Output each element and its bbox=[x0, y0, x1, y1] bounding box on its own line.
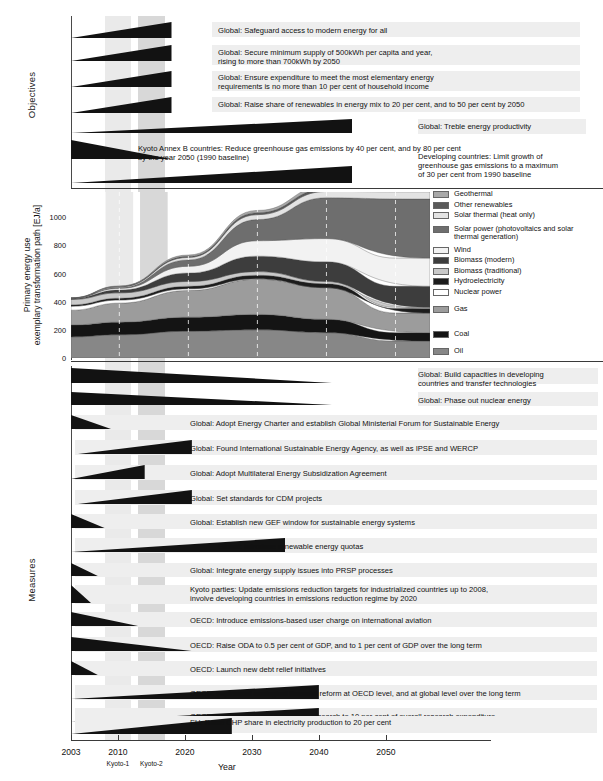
measure-label: Global: Adopt Multilateral Energy Subsid… bbox=[190, 469, 599, 478]
legend-color-swatch bbox=[433, 191, 449, 198]
measure-label: Global: Build capacities in developing c… bbox=[418, 370, 599, 388]
legend-item: Coal bbox=[433, 330, 469, 339]
measure-timeline-wedge bbox=[78, 490, 192, 504]
objective-label: Global: Raise share of renewables in ene… bbox=[218, 100, 596, 109]
legend-label: Solar power (photovoltaics and solar the… bbox=[454, 225, 574, 242]
legend-item: Geothermal bbox=[433, 190, 493, 199]
x-axis-tick bbox=[185, 735, 186, 741]
legend-color-swatch bbox=[433, 331, 449, 338]
objective-timeline-wedge bbox=[71, 119, 352, 133]
primary-energy-use-chart bbox=[71, 192, 430, 358]
x-axis-tick-label: 2030 bbox=[230, 747, 274, 757]
legend-color-swatch bbox=[433, 247, 449, 254]
measure-timeline-wedge bbox=[71, 465, 145, 479]
measure-label: Global: Phase out nuclear energy bbox=[418, 396, 599, 405]
objective-label: Global: Ensure expenditure to meet the m… bbox=[218, 73, 596, 91]
legend-label: Biomass (modern) bbox=[454, 256, 514, 265]
x-axis-tick-label: 2050 bbox=[364, 747, 408, 757]
objective-timeline-wedge bbox=[71, 166, 352, 183]
legend-item: Wind bbox=[433, 246, 471, 255]
measure-timeline-wedge bbox=[78, 440, 192, 454]
measure-timeline-wedge bbox=[71, 585, 91, 603]
legend-color-swatch bbox=[433, 202, 449, 209]
kyoto-period-label: Kyoto-2 bbox=[126, 760, 176, 767]
x-axis-tick bbox=[386, 735, 387, 741]
legend-label: Coal bbox=[454, 330, 469, 339]
measure-label: Global: Establish new GEF window for sus… bbox=[190, 518, 599, 527]
legend-color-swatch bbox=[433, 306, 449, 313]
measures-section-label: Measures bbox=[26, 558, 37, 601]
x-axis-tick bbox=[252, 735, 253, 741]
objective-timeline-wedge bbox=[71, 71, 172, 87]
legend-color-swatch bbox=[433, 348, 449, 355]
measure-timeline-wedge bbox=[71, 661, 98, 675]
legend-item: Solar thermal (heat only) bbox=[433, 211, 535, 220]
legend-label: Oil bbox=[454, 347, 463, 356]
objective-timeline-wedge bbox=[71, 22, 172, 38]
figure-root: Objectives Measures Global: Safeguard ac… bbox=[0, 0, 603, 781]
legend-label: Biomass (traditional) bbox=[454, 267, 521, 276]
measure-label: Kyoto parties: Update emissions reductio… bbox=[190, 585, 599, 603]
measure-label: Global: Introduce renewable energy quota… bbox=[218, 542, 599, 551]
legend-item: Oil bbox=[433, 347, 463, 356]
x-axis-tick-label: 2010 bbox=[96, 747, 140, 757]
legend-label: Nuclear power bbox=[454, 288, 502, 297]
legend-label: Wind bbox=[454, 246, 471, 255]
objectives-chart-divider bbox=[71, 188, 603, 189]
legend-color-swatch bbox=[433, 278, 449, 285]
legend-label: Other renewables bbox=[454, 201, 512, 210]
chart-y-axis-title: Primary energy use exemplary transformat… bbox=[22, 192, 42, 358]
objective-timeline-wedge bbox=[71, 97, 172, 113]
legend-color-swatch bbox=[433, 212, 449, 219]
objective-label: Developing countries: Limit growth of gr… bbox=[418, 152, 596, 180]
legend-item: Biomass (traditional) bbox=[433, 267, 521, 276]
chart-measures-divider bbox=[71, 361, 603, 362]
objectives-section-label: Objectives bbox=[26, 72, 37, 118]
objective-timeline-wedge bbox=[71, 45, 172, 61]
legend-label: Geothermal bbox=[454, 190, 493, 199]
legend-color-swatch bbox=[433, 289, 449, 296]
x-axis-line bbox=[71, 740, 491, 741]
measure-timeline-wedge bbox=[71, 415, 111, 429]
x-axis-title: Year bbox=[218, 762, 236, 772]
measure-label: OECD: Raise ODA to 0.5 per cent of GDP, … bbox=[190, 641, 599, 650]
measure-label: OECD: Implement ecological financial ref… bbox=[190, 689, 599, 698]
objective-label: Global: Treble energy productivity bbox=[418, 122, 596, 131]
measure-label: EU: Raise CHP share in electricity produ… bbox=[190, 718, 599, 727]
measure-label: OECD: Introduce emissions-based user cha… bbox=[190, 616, 599, 625]
measure-label: OECD: Launch new debt relief initiatives bbox=[190, 665, 599, 674]
legend-item: Nuclear power bbox=[433, 288, 502, 297]
measure-timeline-wedge bbox=[71, 637, 192, 651]
legend-label: Gas bbox=[454, 305, 468, 314]
legend-color-swatch bbox=[433, 268, 449, 275]
legend-label: Hydroelectricity bbox=[454, 277, 505, 286]
measure-timeline-wedge bbox=[71, 514, 105, 528]
x-axis-tick bbox=[118, 735, 119, 741]
x-axis-tick bbox=[71, 735, 72, 741]
objective-label: Global: Safeguard access to modern energ… bbox=[218, 26, 596, 35]
legend-item: Gas bbox=[433, 305, 468, 314]
x-axis-tick bbox=[319, 735, 320, 741]
legend-item: Biomass (modern) bbox=[433, 256, 514, 265]
x-axis-tick-label: 2003 bbox=[49, 747, 93, 757]
legend-color-swatch bbox=[433, 226, 449, 233]
measure-timeline-wedge bbox=[71, 392, 332, 405]
x-axis-tick-label: 2040 bbox=[297, 747, 341, 757]
legend-color-swatch bbox=[433, 257, 449, 264]
legend-label: Solar thermal (heat only) bbox=[454, 211, 535, 220]
measure-timeline-wedge bbox=[71, 563, 98, 576]
measure-label: Global: Found International Sustainable … bbox=[190, 444, 599, 453]
legend-item: Other renewables bbox=[433, 201, 512, 210]
measure-label: Global: Integrate energy supply issues i… bbox=[190, 566, 599, 575]
objective-label: Global: Secure minimum supply of 500kWh … bbox=[218, 48, 596, 66]
legend-item: Hydroelectricity bbox=[433, 277, 505, 286]
measure-timeline-wedge bbox=[71, 612, 138, 626]
legend-item: Solar power (photovoltaics and solar the… bbox=[433, 225, 574, 242]
measure-label: Global: Set standards for CDM projects bbox=[190, 494, 599, 503]
measure-timeline-wedge bbox=[71, 368, 332, 383]
measure-label: Global: Adopt Energy Charter and establi… bbox=[190, 419, 599, 428]
x-axis-tick-label: 2020 bbox=[163, 747, 207, 757]
